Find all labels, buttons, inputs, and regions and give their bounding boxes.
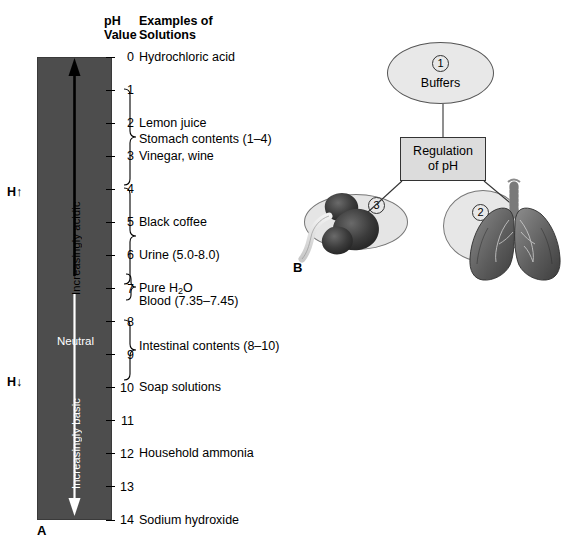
- increasingly-basic-label: Increasingly basic: [38, 368, 113, 518]
- ph-tick-label-4: 4: [112, 183, 134, 195]
- panel-b-letter: B: [293, 260, 302, 275]
- ph-tick-label-11: 11: [112, 415, 134, 427]
- ph-tick-label-6: 6: [112, 249, 134, 261]
- ph-tick-label-7: 7: [112, 283, 134, 295]
- ph-tick-label-8: 8: [112, 316, 134, 328]
- solution-label: Intestinal contents (8–10): [139, 340, 279, 353]
- ph-tick-label-12: 12: [112, 448, 134, 460]
- ph-tick-label-10: 10: [112, 382, 134, 394]
- examples-header: Examples of Solutions: [139, 15, 213, 42]
- ph-tick-label-0: 0: [112, 51, 134, 63]
- ph-brackets: [124, 89, 136, 380]
- buffers-label: Buffers: [387, 76, 494, 90]
- ph-tick-label-1: 1: [112, 84, 134, 96]
- hydrogen-decrease-label: H↓: [7, 375, 22, 389]
- solution-label: Sodium hydroxide: [139, 514, 239, 527]
- solution-label: Vinegar, wine: [139, 150, 214, 163]
- solution-label: Household ammonia: [139, 447, 254, 460]
- lungs-ellipse: [443, 190, 523, 262]
- kidneys-ellipse: [304, 194, 408, 250]
- ph-tick-label-14: 14: [112, 514, 134, 526]
- solution-label: Lemon juice: [139, 117, 206, 130]
- kidneys-number-badge: 3: [368, 197, 385, 214]
- solution-label: Soap solutions: [139, 381, 221, 394]
- solution-label: Black coffee: [139, 216, 207, 229]
- ph-tick-label-3: 3: [112, 150, 134, 162]
- solution-label: Urine (5.0-8.0): [139, 249, 220, 262]
- buffers-ellipse: [387, 42, 494, 104]
- increasingly-acidic-label: Increasingly acidic: [38, 173, 113, 323]
- neutral-label: Neutral: [38, 335, 113, 347]
- figure-root: Increasingly acidic Neutral Increasingly…: [0, 0, 580, 550]
- ph-tick-label-5: 5: [112, 216, 134, 228]
- ph-value-header: pH Value: [104, 15, 137, 42]
- solution-label: Blood (7.35–7.45): [139, 295, 238, 308]
- buffers-number-badge: 1: [432, 55, 449, 72]
- ph-tick-label-9: 9: [112, 349, 134, 361]
- regulation-of-ph-box: Regulation of pH: [400, 137, 486, 181]
- ph-tick-label-13: 13: [112, 481, 134, 493]
- solution-label: Hydrochloric acid: [139, 51, 235, 64]
- ph-scale-bar: Increasingly acidic Neutral Increasingly…: [37, 57, 112, 520]
- panel-a-letter: A: [37, 523, 46, 538]
- hydrogen-increase-label: H↑: [7, 185, 22, 199]
- solution-label: Stomach contents (1–4): [139, 133, 272, 146]
- lungs-number-badge: 2: [472, 204, 489, 221]
- ph-tick-label-2: 2: [112, 117, 134, 129]
